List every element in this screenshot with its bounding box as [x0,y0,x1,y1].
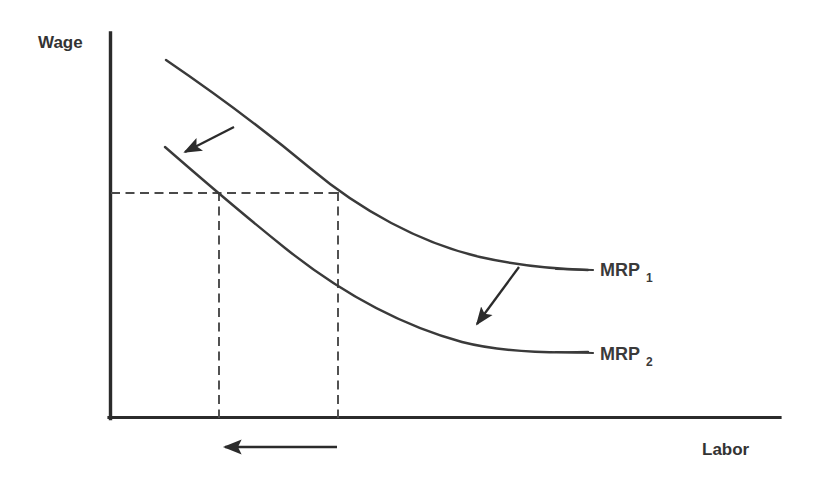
mrp1-leader-line [556,269,593,270]
x-axis-label: Labor [702,440,750,459]
reference-lines-group [111,192,339,418]
mrp1-label-group: MRP 1 [600,260,653,285]
mrp2-label-group: MRP 2 [600,344,653,369]
mrp1-curve [166,60,588,270]
curve-leader-lines-group [556,269,593,353]
mrp-shift-figure: Wage Labor MRP 1 MRP 2 [0,0,815,477]
mrp2-label-subscript: 2 [646,355,653,369]
y-axis-label: Wage [38,33,83,52]
mrp2-leader-line [556,352,593,353]
mrp2-label: MRP [600,344,640,364]
shift-arrow-lower [477,267,519,324]
mrp2-curve [165,147,588,352]
shift-arrow-upper [185,127,234,152]
figure-canvas: Wage Labor MRP 1 MRP 2 [0,0,815,477]
annotation-arrows-group [185,127,519,447]
mrp1-label: MRP [600,260,640,280]
curves-group [165,60,588,352]
mrp1-label-subscript: 1 [646,271,653,285]
